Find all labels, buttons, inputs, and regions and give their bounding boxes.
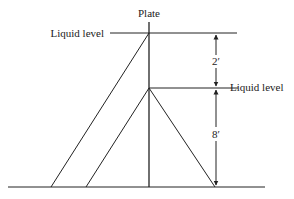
pressure-triangle-left-inner — [86, 88, 149, 187]
pressure-triangle-right — [149, 88, 215, 187]
pressure-triangle-left-outer — [51, 33, 149, 187]
dimension-upper-label: 2′ — [212, 55, 220, 67]
liquid-level-top-label: Liquid level — [51, 27, 104, 39]
dimension-lower-label: 8′ — [212, 128, 220, 140]
plate-label: Plate — [138, 7, 160, 19]
liquid-level-bottom-label: Liquid level — [230, 81, 283, 93]
pressure-diagram: 2′ 8′ Plate Liquid level Liquid level — [0, 0, 294, 199]
